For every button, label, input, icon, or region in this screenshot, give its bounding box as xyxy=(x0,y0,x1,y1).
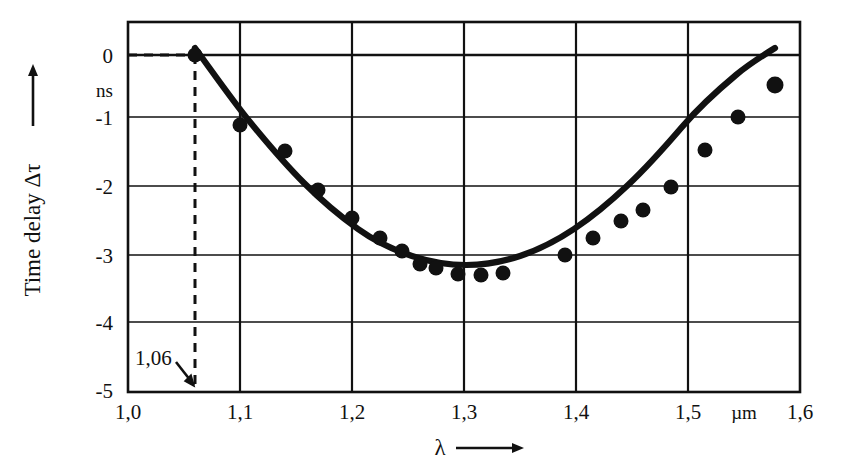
data-point xyxy=(345,211,360,226)
x-tick-label: 1,1 xyxy=(227,400,253,424)
y-axis-tick-labels: 0 -1 -2 -3 -4 -5 ns xyxy=(96,44,114,403)
data-point xyxy=(496,266,511,281)
data-point xyxy=(451,267,466,282)
x-axis-title-group: λ xyxy=(434,435,524,460)
time-delay-chart-figure: 0 -1 -2 -3 -4 -5 ns 1,0 1,1 1,2 1,3 1,4 … xyxy=(0,0,853,472)
x-axis-tick-labels: 1,0 1,1 1,2 1,3 1,4 1,5 1,6 µm xyxy=(115,400,813,424)
x-tick-label: 1,2 xyxy=(339,400,365,424)
data-point xyxy=(373,231,388,246)
data-point xyxy=(395,244,410,259)
data-point xyxy=(731,110,746,125)
chart-canvas: 0 -1 -2 -3 -4 -5 ns 1,0 1,1 1,2 1,3 1,4 … xyxy=(0,0,853,472)
data-point xyxy=(614,214,629,229)
data-point xyxy=(233,118,248,133)
x-tick-label: 1,5 xyxy=(675,400,701,424)
x-axis-title: λ xyxy=(434,435,446,460)
data-point xyxy=(767,77,784,94)
x-tick-label: 1,4 xyxy=(563,400,590,424)
y-axis-arrow-head xyxy=(28,64,38,76)
data-point xyxy=(636,203,651,218)
y-axis-title: Time delay Δτ xyxy=(20,163,45,296)
y-axis-unit-label: ns xyxy=(96,80,113,101)
x-axis-unit-label: µm xyxy=(731,402,757,423)
y-tick-label: -4 xyxy=(96,311,114,335)
data-point xyxy=(429,261,444,276)
zero-crossing-annotation-label: 1,06 xyxy=(135,346,172,370)
data-point xyxy=(278,144,293,159)
x-tick-label: 1,3 xyxy=(451,400,477,424)
data-point xyxy=(474,268,489,283)
y-tick-label: -3 xyxy=(96,244,114,268)
data-point xyxy=(664,180,679,195)
data-point xyxy=(698,143,713,158)
data-point xyxy=(311,183,326,198)
x-tick-label: 1,0 xyxy=(115,400,141,424)
y-tick-label: 0 xyxy=(103,44,114,68)
y-tick-label: -2 xyxy=(96,175,114,199)
y-tick-label: -1 xyxy=(96,106,114,130)
x-axis-arrow-head xyxy=(512,443,524,453)
data-point xyxy=(413,257,428,272)
data-point xyxy=(188,48,203,63)
y-axis-title-group: Time delay Δτ xyxy=(20,64,45,297)
x-tick-label: 1,6 xyxy=(787,400,813,424)
data-point xyxy=(558,248,573,263)
y-tick-label: -5 xyxy=(96,379,114,403)
data-point xyxy=(586,231,601,246)
